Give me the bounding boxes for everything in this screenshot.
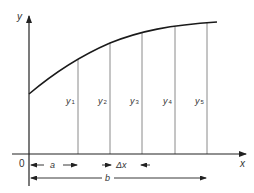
- dimension-b-label: b: [105, 173, 110, 183]
- ordinate-label-5: y5: [194, 96, 205, 106]
- ordinate-label-1: y1: [65, 96, 76, 106]
- dimension-a-label: a: [50, 160, 55, 170]
- ordinate-label-2: y2: [97, 96, 108, 106]
- ordinate-label-3: y3: [129, 96, 140, 106]
- function-curve: [29, 22, 217, 94]
- ordinate-lines: [78, 23, 207, 154]
- ordinate-labels: y1 y2 y3 y4 y5: [65, 96, 205, 106]
- diagram-canvas: y x 0 y1 y2 y3 y4 y5 a Δx b: [0, 0, 254, 193]
- origin-label: 0: [19, 158, 25, 169]
- x-axis-label: x: [239, 158, 246, 169]
- ordinate-label-4: y4: [162, 96, 173, 106]
- dimension-dx-label: Δx: [115, 160, 127, 170]
- y-axis-label: y: [16, 11, 23, 22]
- trapezoid-rule-diagram: y x 0 y1 y2 y3 y4 y5 a Δx b: [0, 0, 254, 193]
